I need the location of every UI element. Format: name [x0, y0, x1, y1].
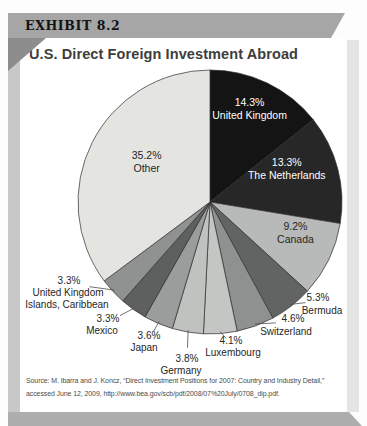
- pie-label-pct-germany: 3.8%: [176, 353, 199, 364]
- pie-label-pct-other: 35.2%: [132, 149, 162, 161]
- pie-leader-line-germany: [188, 330, 189, 348]
- pie-label-pct-the-netherlands: 13.3%: [272, 156, 302, 168]
- pie-label-name-germany: Germany: [160, 365, 201, 376]
- pie-label-name-other: Other: [134, 162, 161, 174]
- pie-label-name-united-kingdom: United Kingdom: [212, 109, 287, 121]
- pie-label-name-luxembourg: Luxembourg: [205, 347, 261, 358]
- pie-leader-line-mexico: [120, 308, 135, 316]
- pie-label-name-bermuda: Bermuda: [302, 305, 343, 316]
- pie-label-name-the-netherlands: The Netherlands: [248, 169, 326, 181]
- pie-label-name-japan: Japan: [130, 342, 157, 353]
- pie-label-pct-bermuda: 5.3%: [307, 292, 330, 303]
- pie-label-name-canada: Canada: [277, 233, 314, 245]
- pie-label-pct-canada: 9.2%: [284, 220, 308, 232]
- pie-label-pct-switzerland: 4.6%: [282, 313, 305, 324]
- pie-label-name-united-kingdom-islands-caribbean: Islands, Caribbean: [25, 299, 108, 310]
- pie-label-pct-mexico: 3.3%: [97, 313, 120, 324]
- pie-label-pct-japan: 3.6%: [138, 330, 161, 341]
- pie-chart: 14.3%United Kingdom13.3%The Netherlands9…: [0, 0, 367, 426]
- pie-label-name-switzerland: Switzerland: [260, 326, 312, 337]
- pie-label-pct-united-kingdom-islands-caribbean: 3.3%: [58, 275, 81, 286]
- pie-label-pct-luxembourg: 4.1%: [220, 335, 243, 346]
- pie-label-name-mexico: Mexico: [86, 325, 118, 336]
- pie-label-name-united-kingdom-islands-caribbean: United Kingdom: [32, 287, 103, 298]
- pie-label-pct-united-kingdom: 14.3%: [235, 96, 265, 108]
